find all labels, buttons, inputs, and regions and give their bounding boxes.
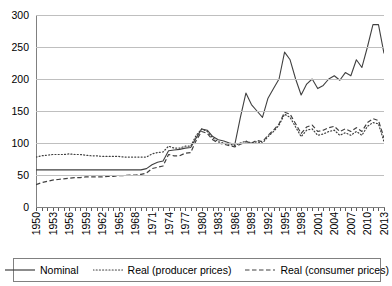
y-axis-tick-label: 100 bbox=[11, 137, 29, 149]
x-axis-tick bbox=[246, 208, 247, 211]
x-axis-tick-label: 1968 bbox=[130, 212, 141, 235]
x-axis-tick bbox=[75, 208, 76, 211]
gridline bbox=[36, 79, 384, 80]
x-axis-tick bbox=[91, 208, 92, 211]
x-axis-tick bbox=[191, 208, 192, 211]
x-axis-tick bbox=[262, 208, 263, 211]
chart-figure: 050100150200250300 195019531956195919621… bbox=[0, 0, 392, 286]
x-axis-tick-label: 1971 bbox=[147, 212, 158, 235]
y-axis-tick-label: 200 bbox=[11, 73, 29, 85]
x-axis-tick bbox=[102, 208, 103, 211]
legend-label: Nominal bbox=[40, 264, 79, 276]
x-axis-tick bbox=[119, 208, 120, 211]
x-axis-tick bbox=[124, 208, 125, 211]
x-axis-tick bbox=[301, 208, 302, 211]
x-axis-tick bbox=[240, 208, 241, 211]
x-axis-tick bbox=[152, 208, 153, 211]
x-axis-tick bbox=[213, 208, 214, 211]
x-axis-tick bbox=[141, 208, 142, 211]
gridline bbox=[36, 15, 384, 16]
x-axis-tick bbox=[373, 208, 374, 211]
x-axis-tick bbox=[130, 208, 131, 211]
x-axis-tick bbox=[36, 208, 37, 211]
x-axis-tick bbox=[86, 208, 87, 211]
x-axis-tick bbox=[312, 208, 313, 211]
x-axis-tick-label: 1998 bbox=[296, 212, 307, 235]
y-axis-tick-label: 250 bbox=[11, 41, 29, 53]
x-axis-tick bbox=[290, 208, 291, 211]
x-axis-tick-label: 1995 bbox=[280, 212, 291, 235]
gridline bbox=[36, 111, 384, 112]
x-axis-tick bbox=[384, 208, 385, 211]
x-axis-tick-label: 1950 bbox=[31, 212, 42, 235]
x-axis-tick bbox=[307, 208, 308, 211]
legend-label: Real (consumer prices) bbox=[280, 264, 389, 276]
plot-wrapper: 050100150200250300 195019531956195919621… bbox=[0, 0, 392, 256]
legend-item[interactable]: Nominal bbox=[0, 264, 86, 276]
y-axis-tick-labels: 050100150200250300 bbox=[0, 0, 33, 215]
x-axis-tick-label: 1992 bbox=[263, 212, 274, 235]
x-axis-tick-label: 2001 bbox=[313, 212, 324, 235]
x-axis-tick bbox=[235, 208, 236, 211]
y-axis-tick-label: 50 bbox=[17, 169, 29, 181]
x-axis-tick-label: 2004 bbox=[329, 212, 340, 235]
x-axis-tick bbox=[279, 208, 280, 211]
x-axis-tick bbox=[334, 208, 335, 211]
x-axis-tick-label: 1974 bbox=[164, 212, 175, 235]
y-axis-tick-label: 300 bbox=[11, 9, 29, 21]
series-line bbox=[36, 114, 384, 157]
x-axis-tick bbox=[207, 208, 208, 211]
x-axis-tick-label: 1965 bbox=[114, 212, 125, 235]
x-axis-tick-label: 1989 bbox=[246, 212, 257, 235]
legend-item[interactable]: Real (consumer prices) bbox=[238, 264, 392, 276]
x-axis-tick bbox=[174, 208, 175, 211]
x-axis-tick bbox=[285, 208, 286, 211]
y-axis-tick-label: 150 bbox=[11, 105, 29, 117]
x-axis-tick bbox=[257, 208, 258, 211]
x-axis-tick bbox=[108, 208, 109, 211]
x-axis-tick bbox=[351, 208, 352, 211]
x-axis-tick bbox=[97, 208, 98, 211]
x-axis-tick bbox=[180, 208, 181, 211]
x-axis-tick-label: 2007 bbox=[346, 212, 357, 235]
plot-area bbox=[36, 15, 384, 207]
legend-item[interactable]: Real (producer prices) bbox=[86, 264, 239, 276]
legend-swatch-dashed bbox=[245, 265, 275, 275]
x-axis-tick bbox=[323, 208, 324, 211]
x-axis-tick-label: 1977 bbox=[180, 212, 191, 235]
x-axis-tick bbox=[158, 208, 159, 211]
x-axis-tick-label: 1986 bbox=[230, 212, 241, 235]
gridline bbox=[36, 143, 384, 144]
x-axis-tick bbox=[163, 208, 164, 211]
x-axis-tick-label: 1956 bbox=[64, 212, 75, 235]
gridline bbox=[36, 47, 384, 48]
x-axis-tick bbox=[318, 208, 319, 211]
x-axis-tick bbox=[224, 208, 225, 211]
x-axis-tick bbox=[113, 208, 114, 211]
chart-legend: NominalReal (producer prices)Real (consu… bbox=[13, 258, 381, 282]
x-axis-tick bbox=[378, 208, 379, 211]
x-axis-tick-label: 1980 bbox=[197, 212, 208, 235]
x-axis-tick bbox=[169, 208, 170, 211]
x-axis-tick bbox=[69, 208, 70, 211]
x-axis-tick-label: 1953 bbox=[48, 212, 59, 235]
x-axis-tick bbox=[345, 208, 346, 211]
x-axis-tick-label: 1983 bbox=[213, 212, 224, 235]
x-axis-tick bbox=[340, 208, 341, 211]
x-axis-tick bbox=[218, 208, 219, 211]
x-axis-tick bbox=[196, 208, 197, 211]
legend-swatch-dotted bbox=[93, 265, 123, 275]
x-axis-tick bbox=[251, 208, 252, 211]
x-axis-tick-label: 1959 bbox=[81, 212, 92, 235]
series-line bbox=[36, 112, 384, 184]
x-axis-tick bbox=[362, 208, 363, 211]
x-axis-tick bbox=[202, 208, 203, 211]
x-axis-tick bbox=[146, 208, 147, 211]
x-axis-tick-label: 2013 bbox=[379, 212, 390, 235]
x-axis-tick-label: 1962 bbox=[97, 212, 108, 235]
x-axis-tick bbox=[229, 208, 230, 211]
x-axis-tick bbox=[58, 208, 59, 211]
x-axis-tick bbox=[64, 208, 65, 211]
x-axis-tick bbox=[47, 208, 48, 211]
legend-swatch-solid bbox=[5, 265, 35, 275]
